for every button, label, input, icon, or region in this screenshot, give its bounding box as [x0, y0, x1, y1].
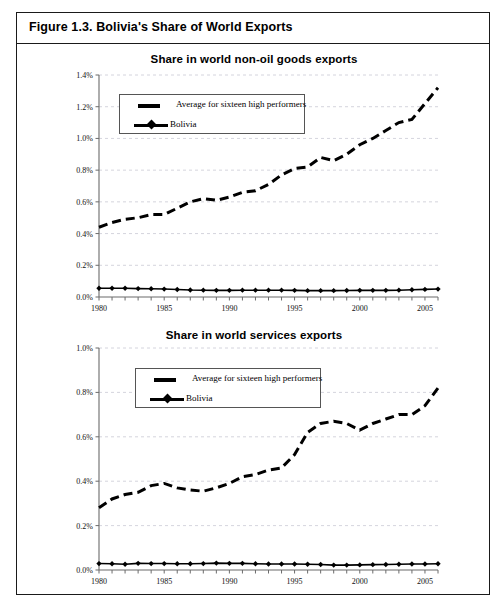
legend-entry-average: Average for sixteen high performers [120, 95, 304, 115]
svg-text:0.0%: 0.0% [76, 293, 93, 302]
svg-text:2000: 2000 [352, 577, 368, 586]
legend-entry-bolivia: Bolivia [136, 389, 320, 409]
diamond-marker-icon [147, 120, 157, 130]
svg-text:1995: 1995 [287, 577, 303, 586]
legend-label-average: Average for sixteen high performers [176, 99, 306, 109]
svg-text:0.2%: 0.2% [76, 261, 93, 270]
svg-text:0.4%: 0.4% [76, 230, 93, 239]
svg-text:1980: 1980 [91, 577, 107, 586]
page-title: Figure 1.3. Bolivia's Share of World Exp… [29, 20, 292, 34]
svg-text:1.2%: 1.2% [76, 103, 93, 112]
svg-text:0.0%: 0.0% [76, 566, 93, 575]
svg-text:1985: 1985 [156, 304, 172, 313]
svg-text:1985: 1985 [156, 577, 172, 586]
svg-text:1990: 1990 [221, 304, 237, 313]
svg-text:2005: 2005 [417, 577, 433, 586]
svg-text:0.6%: 0.6% [76, 198, 93, 207]
legend-entry-bolivia: Bolivia [120, 115, 304, 135]
chart-non-oil-goods: Share in world non-oil goods exports 0.0… [17, 44, 491, 320]
svg-text:1995: 1995 [287, 304, 303, 313]
figure-frame: Figure 1.3. Bolivia's Share of World Exp… [16, 12, 490, 595]
svg-text:0.4%: 0.4% [76, 477, 93, 486]
legend-label-average: Average for sixteen high performers [192, 373, 322, 383]
legend-label-bolivia: Bolivia [170, 119, 197, 129]
svg-text:1.0%: 1.0% [76, 134, 93, 143]
svg-text:0.8%: 0.8% [76, 388, 93, 397]
dashed-line-swatch-icon [138, 104, 160, 108]
legend-entry-average: Average for sixteen high performers [136, 369, 320, 389]
svg-text:1990: 1990 [221, 577, 237, 586]
svg-text:1.4%: 1.4% [76, 71, 93, 80]
svg-text:2000: 2000 [352, 304, 368, 313]
chart-plot-area: 0.0%0.2%0.4%0.6%0.8%1.0%1.2%1.4%19801985… [17, 44, 491, 320]
svg-text:0.6%: 0.6% [76, 433, 93, 442]
svg-text:0.2%: 0.2% [76, 522, 93, 531]
chart-legend: Average for sixteen high performers Boli… [135, 368, 321, 408]
svg-text:1980: 1980 [91, 304, 107, 313]
chart-plot-area: 0.0%0.2%0.4%0.6%0.8%1.0%1980198519901995… [17, 320, 491, 594]
figure-title-bar: Figure 1.3. Bolivia's Share of World Exp… [17, 13, 489, 44]
svg-text:0.8%: 0.8% [76, 166, 93, 175]
svg-text:2005: 2005 [417, 304, 433, 313]
svg-text:1.0%: 1.0% [76, 344, 93, 353]
chart-services: Share in world services exports 0.0%0.2%… [17, 320, 491, 594]
legend-label-bolivia: Bolivia [186, 393, 213, 403]
diamond-marker-icon [163, 394, 173, 404]
chart-legend: Average for sixteen high performers Boli… [119, 94, 305, 134]
dashed-line-swatch-icon [154, 378, 176, 382]
